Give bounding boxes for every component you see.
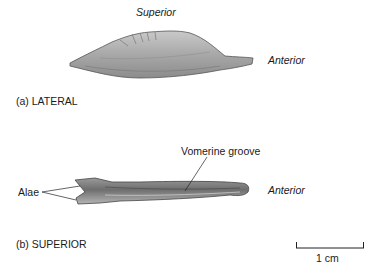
scale-bar [296, 242, 364, 248]
illustration [0, 0, 383, 273]
superior-label: Superior [136, 6, 176, 18]
panel-a-caption: (a) LATERAL [16, 95, 78, 107]
anterior-label-lateral: Anterior [268, 54, 305, 66]
alae-leader-upper [42, 186, 80, 192]
alae-label: Alae [18, 186, 39, 198]
vomer-superior-view [75, 178, 249, 204]
vomer-lateral-view [70, 31, 253, 78]
anterior-label-superior: Anterior [268, 184, 305, 196]
alae-leader-lower [42, 192, 76, 200]
vomerine-groove-label: Vomerine groove [181, 145, 260, 157]
panel-b-caption: (b) SUPERIOR [16, 238, 87, 250]
scale-bar-label: 1 cm [316, 252, 339, 264]
